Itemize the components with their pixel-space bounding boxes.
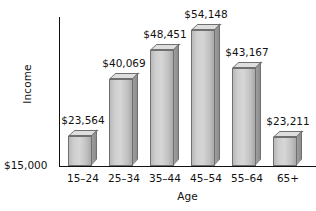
bar-2-value-label: $40,069 — [93, 57, 155, 69]
income-by-age-bar-chart: Income Age $15,000 $23,56415–24$40,06925… — [0, 0, 316, 211]
bar-3-side-face — [173, 43, 179, 166]
bar-2 — [109, 79, 133, 166]
bar-2-side-face — [132, 72, 138, 166]
y-axis-title: Income — [21, 54, 33, 114]
x-tick-label-3: 35–44 — [142, 172, 188, 184]
bar-6-value-label: $23,211 — [257, 115, 316, 127]
bar-4-side-face — [214, 23, 220, 166]
bar-3 — [150, 50, 174, 166]
bar-1-value-label: $23,564 — [52, 114, 114, 126]
bar-6-side-face — [296, 131, 302, 166]
x-tick-label-2: 25–34 — [101, 172, 147, 184]
bar-1-side-face — [91, 130, 97, 166]
x-axis-title: Age — [59, 190, 316, 202]
y-axis-baseline-label: $15,000 — [4, 159, 47, 171]
bar-5-side-face — [255, 61, 261, 166]
x-tick-label-1: 15–24 — [60, 172, 106, 184]
x-tick-label-4: 45–54 — [183, 172, 229, 184]
x-axis-line — [59, 166, 316, 167]
bar-6 — [273, 137, 297, 166]
bar-1 — [68, 136, 92, 166]
bar-5-value-label: $43,167 — [216, 46, 278, 58]
x-tick-label-6: 65+ — [265, 172, 311, 184]
x-tick-label-5: 55–64 — [224, 172, 270, 184]
bar-4 — [191, 30, 215, 166]
bar-4-value-label: $54,148 — [175, 8, 237, 20]
bar-5 — [232, 68, 256, 166]
y-axis-line — [59, 17, 60, 167]
bar-3-value-label: $48,451 — [134, 28, 196, 40]
